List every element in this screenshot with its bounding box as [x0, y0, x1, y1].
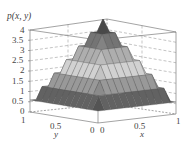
z-tick-3: 3 — [20, 46, 25, 55]
z-axis-title: p(x, y) — [7, 12, 31, 22]
x-tick-1: 1 — [176, 117, 181, 126]
z-tick-1: 1 — [20, 87, 25, 96]
y-tick-1: 1 — [21, 116, 26, 125]
y-tick-0: 0 — [90, 126, 95, 135]
z-tick-1.5: 1.5 — [12, 77, 23, 86]
z-tick-0.5: 0.5 — [12, 97, 23, 106]
pyramid-surface — [30, 19, 176, 111]
z-tick-4: 4 — [20, 26, 25, 35]
x-axis-title: x — [140, 130, 144, 139]
y-axis-title: y — [54, 130, 58, 139]
z-tick-3.5: 3.5 — [12, 36, 23, 45]
z-tick-2: 2 — [20, 66, 25, 75]
z-tick-2.5: 2.5 — [12, 56, 23, 65]
x-tick-0: 0 — [100, 126, 105, 135]
